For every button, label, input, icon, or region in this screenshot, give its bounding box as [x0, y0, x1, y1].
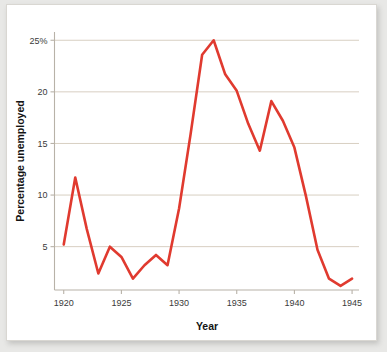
x-tick-label-1940: 1940 — [284, 298, 304, 308]
y-tick-label-20: 20 — [37, 87, 47, 97]
y-tick-label-15: 15 — [37, 139, 47, 149]
gridlines-group — [55, 40, 360, 246]
x-tick-label-1935: 1935 — [227, 298, 247, 308]
y-axis-title: Percentage unemployed — [14, 100, 26, 221]
x-axis-title: Year — [196, 320, 218, 332]
x-tick-group: 192019251930193519401945 — [54, 290, 362, 308]
unemployment-series-line — [64, 40, 352, 286]
x-tick-label-1945: 1945 — [342, 298, 362, 308]
y-tick-label-25%: 25% — [29, 36, 47, 46]
y-tick-label-5: 5 — [42, 242, 47, 252]
y-tick-group: 510152025% — [29, 36, 54, 252]
x-tick-label-1925: 1925 — [111, 298, 131, 308]
unemployment-line-chart: 192019251930193519401945 510152025% Year… — [7, 5, 378, 342]
chart-svg: 192019251930193519401945 510152025% Year… — [7, 5, 378, 342]
x-tick-label-1930: 1930 — [169, 298, 189, 308]
y-tick-label-10: 10 — [37, 190, 47, 200]
axes-group — [55, 32, 360, 290]
chart-card: 192019251930193519401945 510152025% Year… — [6, 4, 377, 341]
x-tick-label-1920: 1920 — [54, 298, 74, 308]
